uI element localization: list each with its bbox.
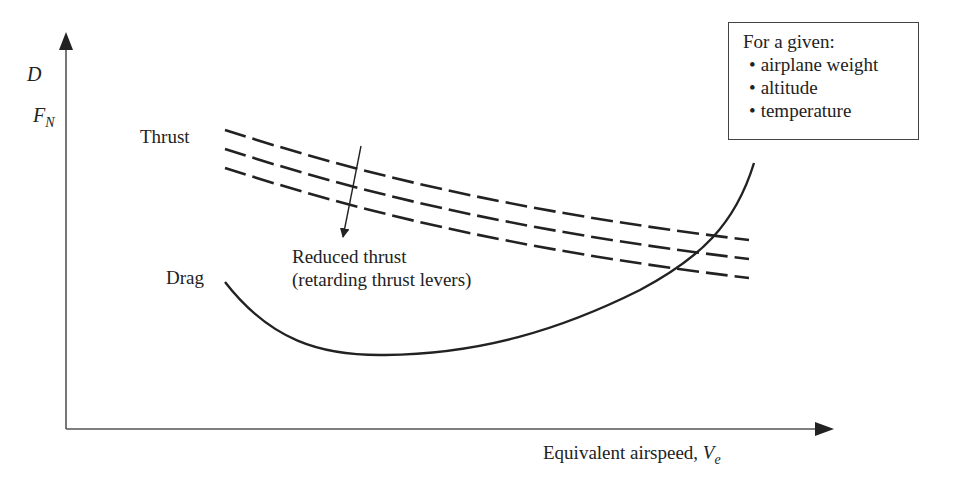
retarding-levers-label: (retarding thrust levers) (292, 270, 471, 289)
thrust-label: Thrust (140, 127, 190, 146)
x-axis-label-text: Equivalent airspeed, (543, 442, 703, 463)
y-axis-label-sub: N (45, 115, 54, 130)
y-axis-label-d: D (27, 64, 41, 84)
legend-item-weight: airplane weight (743, 53, 918, 76)
reduced-thrust-arrow (343, 146, 361, 237)
x-axis-arrow-icon (815, 422, 834, 436)
legend-title: For a given: (743, 30, 918, 53)
thrust-line-high (225, 130, 749, 240)
y-axis-label-f: F (33, 104, 45, 126)
x-axis-label-var: V (703, 442, 715, 463)
conditions-legend-box: For a given: airplane weight altitude te… (728, 22, 919, 140)
legend-item-temperature: temperature (743, 99, 918, 122)
y-axis-label-fn: FN (33, 105, 55, 130)
y-axis-arrow-icon (59, 32, 73, 50)
thrust-line-mid (225, 149, 749, 259)
x-axis-label: Equivalent airspeed, Ve (543, 443, 721, 467)
reduced-thrust-label: Reduced thrust (292, 247, 407, 266)
x-axis-label-sub: e (714, 452, 720, 467)
drag-label: Drag (166, 268, 204, 287)
legend-item-altitude: altitude (743, 76, 918, 99)
